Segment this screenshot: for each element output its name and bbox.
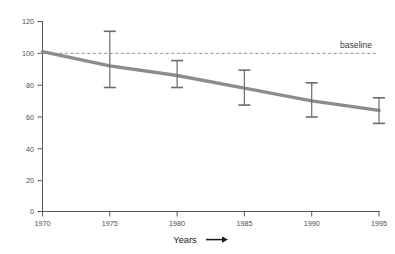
baseline-label: baseline [340, 40, 372, 50]
x-tick-label-1990: 1990 [304, 219, 320, 228]
y-axis-tick-labels: 120 100 80 60 40 20 0 [22, 17, 34, 216]
y-tick-label-0: 0 [30, 207, 34, 216]
x-tick-label-1995: 1995 [371, 219, 387, 228]
y-tick-label-120: 120 [22, 17, 34, 26]
y-tick-label-100: 100 [22, 49, 34, 58]
y-tick-label-20: 20 [26, 176, 34, 185]
x-tick-label-1975: 1975 [102, 219, 118, 228]
x-axis-title: Years [173, 235, 197, 245]
y-tick-label-80: 80 [26, 81, 34, 90]
y-tick-label-40: 40 [26, 145, 34, 154]
x-axis-ticks [43, 212, 380, 217]
chart-container: 120 100 80 60 40 20 0 1970 1975 1980 198… [0, 0, 395, 254]
trend-line [43, 52, 380, 111]
line-chart-with-error-bars: 120 100 80 60 40 20 0 1970 1975 1980 198… [0, 0, 395, 254]
x-axis-title-group: Years [173, 235, 228, 245]
x-axis-tick-labels: 1970 1975 1980 1985 1990 1995 [35, 219, 388, 228]
x-tick-label-1980: 1980 [169, 219, 185, 228]
x-tick-label-1970: 1970 [35, 219, 51, 228]
error-bar-1975 [104, 31, 116, 87]
y-axis-ticks [38, 22, 43, 212]
y-tick-label-60: 60 [26, 113, 34, 122]
right-arrow-icon [206, 236, 228, 242]
x-tick-label-1985: 1985 [236, 219, 252, 228]
